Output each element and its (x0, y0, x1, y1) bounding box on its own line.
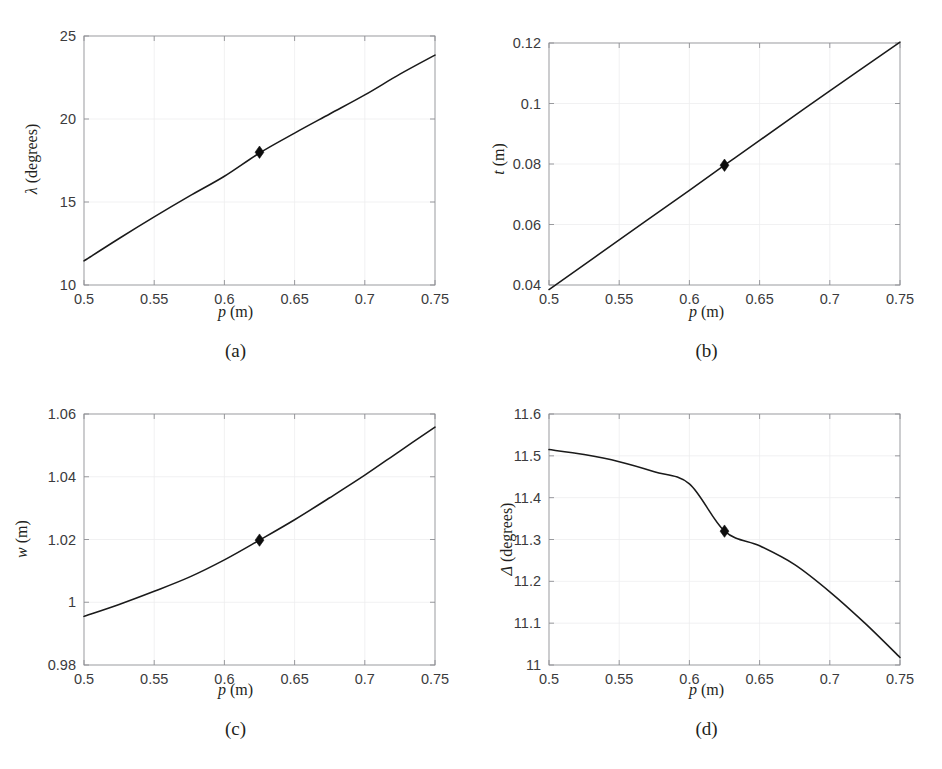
y-tick-label: 11.1 (514, 615, 541, 631)
y-axis-symbol-b: t (490, 170, 507, 174)
data-marker-diamond (720, 159, 729, 171)
plot-area-d: 0.50.550.60.650.70.751111.111.211.311.41… (471, 385, 942, 769)
y-tick-label: 0.98 (48, 657, 76, 673)
y-axis-symbol-d: Δ (498, 566, 515, 575)
x-axis-unit-c: (m) (230, 681, 253, 698)
y-axis-unit-a: (degrees) (23, 124, 40, 184)
data-marker-diamond (255, 534, 264, 546)
subplot-a: 0.50.550.60.650.70.7510152025 p (m) λ (d… (0, 0, 471, 384)
caption-b: (b) (471, 340, 942, 362)
plot-area-c: 0.50.550.60.650.70.750.9811.021.041.06 (0, 385, 471, 769)
y-tick-label: 11 (526, 657, 541, 673)
y-tick-label: 11.5 (514, 448, 541, 464)
y-axis-label-c: w (m) (13, 489, 31, 589)
y-tick-label: 1.06 (48, 406, 76, 422)
y-axis-label-d: Δ (degrees) (498, 459, 516, 619)
y-tick-label: 11.2 (514, 573, 541, 589)
x-axis-unit-b: (m) (701, 303, 724, 320)
plot-area-b: 0.50.550.60.650.70.750.040.060.080.10.12 (471, 0, 942, 384)
y-axis-symbol-c: w (13, 547, 30, 558)
subplot-d: 0.50.550.60.650.70.751111.111.211.311.41… (471, 385, 942, 769)
x-axis-label-b: p (m) (471, 303, 942, 321)
y-tick-label: 0.08 (513, 156, 541, 172)
y-axis-symbol-a: λ (23, 187, 40, 194)
caption-d: (d) (471, 718, 942, 740)
y-tick-label: 25 (60, 28, 76, 44)
x-axis-symbol-c: p (218, 681, 226, 698)
x-axis-label-d: p (m) (471, 681, 942, 699)
y-tick-label: 0.12 (513, 35, 541, 51)
caption-c: (c) (0, 718, 471, 740)
caption-a: (a) (0, 340, 471, 362)
subplot-b: 0.50.550.60.650.70.750.040.060.080.10.12… (471, 0, 942, 384)
y-tick-label: 15 (60, 194, 76, 210)
x-axis-symbol-b: p (689, 303, 697, 320)
y-axis-label-a: λ (degrees) (23, 79, 41, 239)
data-curve-c (84, 427, 435, 616)
x-axis-unit-d: (m) (701, 681, 724, 698)
y-tick-label: 1.02 (48, 532, 76, 548)
x-axis-symbol-d: p (689, 681, 697, 698)
x-axis-unit-a: (m) (230, 303, 253, 320)
subplot-c: 0.50.550.60.650.70.750.9811.021.041.06 p… (0, 385, 471, 769)
plot-area-a: 0.50.550.60.650.70.7510152025 (0, 0, 471, 384)
y-tick-label: 10 (60, 277, 76, 293)
y-tick-label: 1.04 (48, 469, 76, 485)
y-tick-label: 20 (60, 111, 76, 127)
y-tick-label: 0.06 (513, 217, 541, 233)
figure-four-subplots: 0.50.550.60.650.70.7510152025 p (m) λ (d… (0, 0, 942, 769)
y-tick-label: 11.3 (514, 532, 541, 548)
data-marker-diamond (255, 146, 264, 158)
y-tick-label: 0.04 (513, 277, 541, 293)
y-tick-label: 1 (68, 594, 76, 610)
y-axis-unit-b: (m) (490, 143, 507, 166)
x-axis-label-a: p (m) (0, 303, 471, 321)
y-axis-unit-d: (degrees) (498, 503, 515, 563)
y-axis-unit-c: (m) (13, 520, 30, 543)
data-curve-d (549, 450, 900, 658)
y-tick-label: 11.4 (514, 490, 541, 506)
x-axis-label-c: p (m) (0, 681, 471, 699)
y-axis-label-b: t (m) (490, 109, 508, 209)
axis-box-a (84, 36, 435, 285)
y-tick-label: 11.6 (514, 406, 541, 422)
x-axis-symbol-a: p (218, 303, 226, 320)
y-tick-label: 0.1 (521, 96, 541, 112)
